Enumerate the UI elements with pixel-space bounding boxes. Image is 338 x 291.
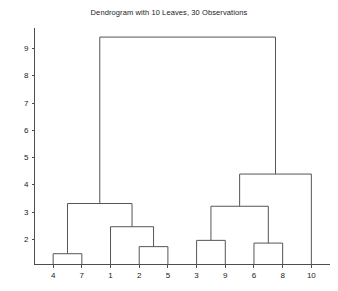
dendrogram-link: [111, 227, 154, 265]
y-tick-label: 8: [24, 71, 29, 80]
leaf-label: 2: [137, 271, 142, 280]
leaf-label: 10: [307, 271, 316, 280]
y-tick-label: 4: [24, 180, 29, 189]
leaf-label: 3: [194, 271, 199, 280]
dendrogram-link: [139, 247, 168, 265]
y-tick-label: 7: [24, 99, 29, 108]
dendrogram-plot: 23456789 47125396810: [0, 0, 338, 291]
y-tick-label: 6: [24, 126, 29, 135]
axes-group: [35, 28, 331, 265]
leaf-label: 1: [108, 271, 113, 280]
dendrogram-link: [197, 240, 226, 264]
y-tick-label: 2: [24, 235, 29, 244]
dendrogram-link: [211, 206, 268, 243]
leaf-label: 6: [252, 271, 257, 280]
dendrogram-link: [67, 204, 132, 254]
y-tick-label: 5: [24, 153, 29, 162]
y-tick-label-group: 23456789: [24, 44, 29, 244]
y-tick-label: 9: [24, 44, 29, 53]
leaf-label: 4: [51, 271, 56, 280]
dendrogram-link: [53, 254, 82, 265]
dendrogram-figure: Dendrogram with 10 Leaves, 30 Observatio…: [0, 0, 338, 291]
dendrogram-link: [254, 243, 283, 264]
dendrogram-link-group: [53, 37, 311, 264]
y-tick-label: 3: [24, 208, 29, 217]
leaf-label: 7: [80, 271, 85, 280]
leaf-label: 9: [223, 271, 228, 280]
leaf-label: 8: [280, 271, 285, 280]
dendrogram-link: [100, 37, 276, 203]
dendrogram-link: [240, 174, 312, 264]
x-tick-label-group: 47125396810: [51, 271, 316, 280]
leaf-label: 5: [166, 271, 171, 280]
